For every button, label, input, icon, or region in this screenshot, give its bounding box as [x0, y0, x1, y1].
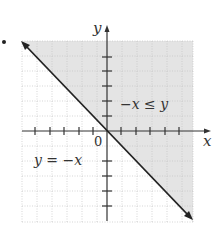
inequality-label: −x ≤ y: [120, 96, 169, 112]
equation-label: y = −x: [33, 152, 82, 168]
origin-label: 0: [94, 134, 102, 149]
inequality-graph: y x 0 −x ≤ y y = −x: [0, 0, 214, 234]
bullet-marker: [2, 40, 6, 44]
x-axis-label: x: [203, 132, 212, 150]
y-axis-label: y: [92, 19, 102, 37]
y-axis-arrow-icon: [105, 25, 110, 32]
